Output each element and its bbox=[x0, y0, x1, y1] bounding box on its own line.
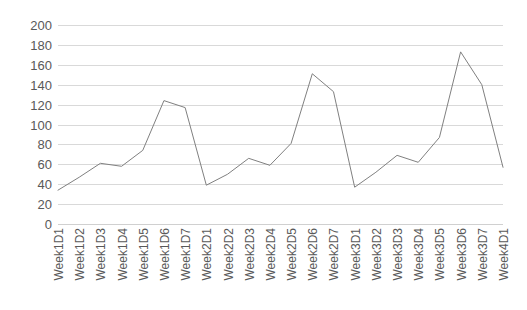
x-tick-label: Week1D1 bbox=[53, 228, 65, 306]
x-tick-text: Week2D2 bbox=[223, 228, 235, 306]
x-tick-text: Week1D2 bbox=[74, 228, 86, 306]
x-tick-label: Week3D5 bbox=[434, 228, 446, 306]
x-tick-text: Week3D5 bbox=[434, 228, 446, 306]
x-tick-text: Week1D5 bbox=[138, 228, 150, 306]
plot-area bbox=[58, 25, 503, 224]
x-tick-text: Week3D7 bbox=[477, 228, 489, 306]
x-tick-text: Week3D1 bbox=[350, 228, 362, 306]
x-tick-label: Week1D3 bbox=[95, 228, 107, 306]
x-tick-label: Week2D5 bbox=[286, 228, 298, 306]
gridline-0 bbox=[58, 224, 503, 225]
x-tick-text: Week4D1 bbox=[498, 228, 510, 306]
x-tick-text: Week2D1 bbox=[201, 228, 213, 306]
x-tick-text: Week1D1 bbox=[53, 228, 65, 306]
x-tick-text: Week2D4 bbox=[265, 228, 277, 306]
x-tick-label: Week2D7 bbox=[328, 228, 340, 306]
x-tick-text: Week2D6 bbox=[307, 228, 319, 306]
y-tick-label: 200 bbox=[30, 19, 52, 32]
x-tick-text: Week2D7 bbox=[328, 228, 340, 306]
x-tick-text: Week2D5 bbox=[286, 228, 298, 306]
x-tick-text: Week1D4 bbox=[117, 228, 129, 306]
x-tick-label: Week3D1 bbox=[350, 228, 362, 306]
x-tick-label: Week3D2 bbox=[371, 228, 383, 306]
x-tick-label: Week2D2 bbox=[223, 228, 235, 306]
x-tick-label: Week3D3 bbox=[392, 228, 404, 306]
x-axis: Week1D1Week1D2Week1D3Week1D4Week1D5Week1… bbox=[58, 228, 503, 310]
y-tick-label: 80 bbox=[38, 138, 52, 151]
x-tick-label: Week3D4 bbox=[413, 228, 425, 306]
series-line bbox=[58, 25, 503, 224]
x-tick-text: Week3D6 bbox=[456, 228, 468, 306]
x-tick-label: Week2D3 bbox=[244, 228, 256, 306]
x-tick-label: Week2D6 bbox=[307, 228, 319, 306]
y-tick-label: 100 bbox=[30, 118, 52, 131]
x-tick-text: Week2D3 bbox=[244, 228, 256, 306]
x-tick-label: Week2D4 bbox=[265, 228, 277, 306]
y-tick-label: 180 bbox=[30, 38, 52, 51]
x-tick-text: Week1D6 bbox=[159, 228, 171, 306]
x-tick-text: Week1D3 bbox=[95, 228, 107, 306]
y-tick-label: 60 bbox=[38, 158, 52, 171]
x-tick-label: Week1D6 bbox=[159, 228, 171, 306]
x-tick-label: Week2D1 bbox=[201, 228, 213, 306]
y-tick-label: 40 bbox=[38, 178, 52, 191]
x-tick-text: Week3D2 bbox=[371, 228, 383, 306]
x-tick-text: Week3D4 bbox=[413, 228, 425, 306]
y-tick-label: 120 bbox=[30, 98, 52, 111]
line-chart: 020406080100120140160180200 Week1D1Week1… bbox=[0, 0, 527, 310]
x-tick-label: Week1D4 bbox=[117, 228, 129, 306]
x-tick-label: Week3D7 bbox=[477, 228, 489, 306]
x-tick-label: Week1D2 bbox=[74, 228, 86, 306]
x-tick-label: Week1D5 bbox=[138, 228, 150, 306]
y-tick-label: 160 bbox=[30, 58, 52, 71]
y-tick-label: 0 bbox=[45, 218, 52, 231]
y-tick-label: 140 bbox=[30, 78, 52, 91]
x-tick-label: Week4D1 bbox=[498, 228, 510, 306]
y-axis: 020406080100120140160180200 bbox=[0, 25, 52, 224]
x-tick-label: Week3D6 bbox=[456, 228, 468, 306]
x-tick-label: Week1D7 bbox=[180, 228, 192, 306]
y-tick-label: 20 bbox=[38, 198, 52, 211]
x-tick-text: Week3D3 bbox=[392, 228, 404, 306]
x-tick-text: Week1D7 bbox=[180, 228, 192, 306]
